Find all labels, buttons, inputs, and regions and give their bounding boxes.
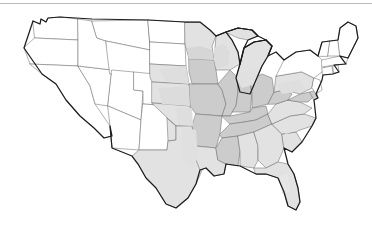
state-oregon[interactable] <box>24 38 78 66</box>
patch-oklahoma-east <box>176 108 193 126</box>
us-map-container <box>0 8 372 231</box>
patch-georgia-west <box>258 138 270 158</box>
state-washington[interactable] <box>33 17 78 40</box>
state-south-dakota[interactable] <box>150 42 186 66</box>
patch-kansas-east <box>158 86 190 106</box>
state-alabama[interactable] <box>238 132 258 168</box>
us-map-svg <box>0 8 372 231</box>
state-florida[interactable] <box>254 162 300 210</box>
top-horizontal-rule <box>0 3 372 4</box>
state-missouri[interactable] <box>189 84 226 116</box>
state-north-dakota[interactable] <box>148 20 185 44</box>
state-iowa[interactable] <box>189 59 218 84</box>
map-figure <box>0 0 372 231</box>
